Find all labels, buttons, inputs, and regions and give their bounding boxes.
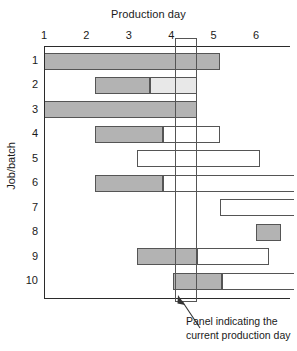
y-tick-label-7: 7 [8, 201, 38, 213]
x-tick-label-6: 6 [246, 29, 266, 41]
x-tick-label-5: 5 [204, 29, 224, 41]
gantt-chart: Production day Job/batch 123456 12345678… [0, 0, 297, 351]
y-tick-label-10: 10 [8, 274, 38, 286]
gantt-bar-job-6-segment-1[interactable] [95, 175, 163, 192]
y-axis-title: Job/batch [5, 134, 17, 198]
gantt-bar-job-2-segment-1[interactable] [95, 77, 150, 94]
current-day-panel-rect[interactable] [175, 38, 196, 302]
gantt-bar-job-3-segment-1[interactable] [44, 101, 197, 118]
y-tick-label-8: 8 [8, 225, 38, 237]
gantt-bar-job-9-segment-2[interactable] [197, 248, 269, 265]
y-tick-label-3: 3 [8, 103, 38, 115]
y-tick-label-1: 1 [8, 54, 38, 66]
annotation-line-1: Panel indicating the [186, 315, 278, 328]
annotation-line-2: current production day [186, 329, 290, 342]
gantt-bar-job-7-segment-1[interactable] [220, 199, 294, 216]
x-tick-label-3: 3 [119, 29, 139, 41]
x-tick-label-2: 2 [76, 29, 96, 41]
x-tick-label-1: 1 [34, 29, 54, 41]
x-axis-title: Production day [0, 8, 297, 20]
y-tick-label-6: 6 [8, 176, 38, 188]
gantt-bar-job-8-segment-1[interactable] [256, 224, 281, 241]
y-tick-label-5: 5 [8, 152, 38, 164]
gantt-bar-job-5-segment-1[interactable] [137, 150, 260, 167]
y-tick-label-2: 2 [8, 78, 38, 90]
gantt-bar-job-4-segment-1[interactable] [95, 126, 163, 143]
y-axis-line [44, 46, 45, 298]
y-tick-label-9: 9 [8, 250, 38, 262]
y-tick-label-4: 4 [8, 127, 38, 139]
gantt-bar-job-10-segment-2[interactable] [222, 273, 294, 290]
top-axis-line [44, 46, 290, 47]
